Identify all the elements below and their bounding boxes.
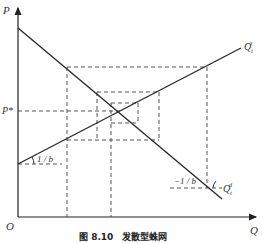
supply-curve-label: Qts <box>244 40 253 54</box>
cobweb-diagram: P Q O P* Qts Qtd 1 / b −1 / b 图 8.10 发散型… <box>0 0 265 244</box>
demand-curve <box>18 28 222 199</box>
figure-caption: 图 8.10 发散型蛛网 <box>79 231 167 242</box>
supply-angle-arc <box>32 157 34 164</box>
supply-slope-label: 1 / b <box>37 154 54 164</box>
demand-slope-label: −1 / b <box>174 176 197 186</box>
origin-label: O <box>6 220 14 232</box>
y-axis-label: P <box>2 4 10 16</box>
demand-curve-label: Qtd <box>223 182 233 196</box>
supply-curve <box>18 48 241 164</box>
demand-angle-arc <box>213 181 216 188</box>
cobweb-dashed-path <box>18 67 222 217</box>
x-axis-label: Q <box>250 224 258 236</box>
equilibrium-price-label: P* <box>1 105 13 116</box>
